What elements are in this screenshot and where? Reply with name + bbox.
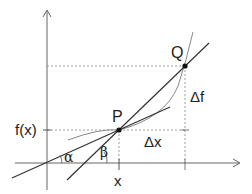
alpha-label: α — [64, 150, 73, 164]
diagram-graphics — [0, 0, 252, 194]
delta-f-label: Δf — [190, 89, 204, 104]
point-p — [116, 127, 121, 132]
point-q — [182, 63, 187, 68]
delta-x-label: Δx — [144, 134, 162, 149]
secant-line — [67, 43, 209, 180]
diagram-canvas: P Q f(x) x Δx Δf α β — [0, 0, 252, 194]
x-label: x — [114, 173, 122, 188]
point-q-label: Q — [171, 45, 183, 61]
beta-label: β — [100, 145, 108, 159]
point-p-label: P — [112, 109, 123, 125]
fx-label: f(x) — [15, 122, 37, 137]
